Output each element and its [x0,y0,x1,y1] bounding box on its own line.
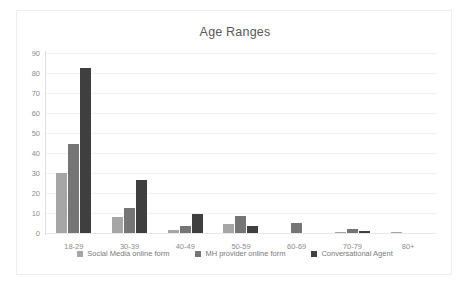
bar-group: 70-79 [325,53,381,233]
bar [124,208,135,233]
bar [112,217,123,233]
bar-group-bars [325,53,381,233]
chart-container: Age Ranges 9080706050403020100 18-2930-3… [16,10,452,275]
bar [359,231,370,233]
bar-group: 40-49 [157,53,213,233]
bar [68,144,79,233]
bar [180,226,191,233]
bar-group: 30-39 [102,53,158,233]
bar-group-bars [46,53,102,233]
legend-item-label: MH provider online form [205,249,285,258]
bar [235,216,246,233]
bar [391,232,402,233]
gridline [46,233,436,234]
y-axis-tick-label: 70 [32,89,40,98]
legend-swatch-icon [195,251,201,257]
legend-item[interactable]: Conversational Agent [311,249,392,258]
legend-item-label: Social Media online form [87,249,169,258]
legend-item-label: Conversational Agent [321,249,392,258]
bar [56,173,67,233]
y-axis-tick-label: 30 [32,169,40,178]
bar [223,224,234,233]
y-axis-tick-label: 0 [36,229,40,238]
bar [168,230,179,233]
bar-group-bars [102,53,158,233]
y-axis-tick-label: 20 [32,189,40,198]
bar-group-bars [157,53,213,233]
bar [347,229,358,233]
legend-item[interactable]: Social Media online form [77,249,169,258]
legend-swatch-icon [77,251,83,257]
legend-swatch-icon [311,251,317,257]
bar-group-bars [380,53,436,233]
bar-group: 80+ [380,53,436,233]
bar-group-bars [213,53,269,233]
bar [291,223,302,233]
bar-group: 50-59 [213,53,269,233]
y-axis-tick-label: 40 [32,149,40,158]
bar [80,68,91,233]
bar-group: 60-69 [269,53,325,233]
y-axis-tick-label: 80 [32,69,40,78]
y-axis-tick-label: 50 [32,129,40,138]
bar [136,180,147,233]
bar [247,226,258,233]
bar-group-bars [269,53,325,233]
y-axis-tick-label: 10 [32,209,40,218]
plot-area: 9080706050403020100 18-2930-3940-4950-59… [46,53,436,233]
bar-group: 18-29 [46,53,102,233]
bar [335,232,346,233]
bar [192,214,203,233]
y-axis-tick-label: 90 [32,49,40,58]
chart-legend: Social Media online formMH provider onli… [17,249,452,258]
legend-item[interactable]: MH provider online form [195,249,285,258]
y-axis-tick-label: 60 [32,109,40,118]
chart-title: Age Ranges [17,25,452,39]
